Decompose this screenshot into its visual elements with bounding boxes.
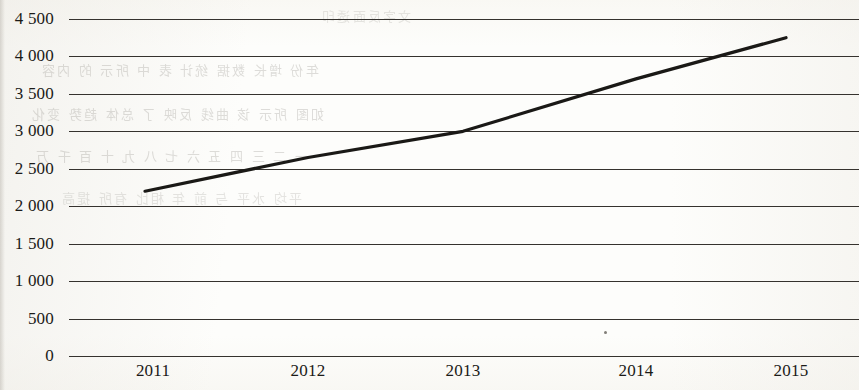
line-chart-plot-area: 4 5004 0003 5003 0002 5002 0001 5001 000… [0,0,859,390]
dust-speck-artifact [604,331,607,334]
scanned-chart-page: 文字反面透印 年份 增长 数据 统计 表 中 所示 的 内容 如图 所示 该 曲… [0,0,859,390]
data-series-line [0,0,859,390]
